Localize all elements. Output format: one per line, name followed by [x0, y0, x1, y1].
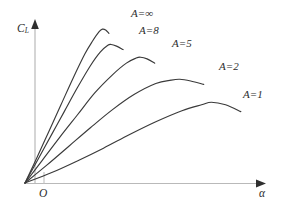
y-axis-label-subscript: L: [25, 26, 29, 35]
curve-label-aspect-ratio-1: A=1: [243, 89, 263, 100]
lift-coefficient-chart: CL α O A=∞ A=8 A=5 A=2 A=1: [0, 0, 284, 208]
curve-label-aspect-ratio-5: A=5: [172, 38, 192, 49]
curve-label-aspect-ratio-2: A=2: [219, 61, 239, 72]
y-axis-label-text: C: [17, 22, 25, 34]
curve-label-aspect-ratio-8: A=8: [139, 25, 159, 36]
curve-aspect-ratio-2: [25, 79, 204, 183]
curve-label-aspect-ratio-infinity: A=∞: [131, 8, 153, 19]
y-axis-arrowhead: [31, 19, 39, 29]
curve-aspect-ratio-1: [25, 102, 241, 183]
curve-aspect-ratio-5: [25, 57, 155, 183]
y-axis-label: CL: [17, 23, 29, 35]
x-axis-label: α: [259, 188, 265, 200]
origin-label: O: [39, 188, 47, 200]
